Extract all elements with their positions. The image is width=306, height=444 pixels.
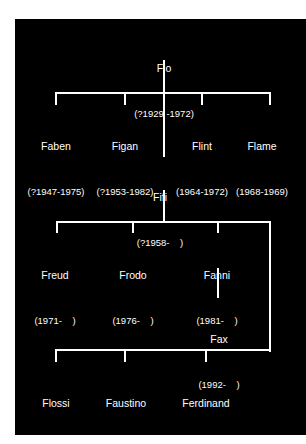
node-dates: (1968-1969) [236, 187, 288, 197]
node-ferdinand: Ferdinand (1992- ) [182, 366, 229, 444]
node-name: Ferdinand [182, 398, 229, 409]
page: Flo (?1929 -1972) Faben (?1947-1975) Fig… [0, 0, 306, 444]
node-name: Faustino [105, 398, 146, 409]
connector-faben [55, 92, 57, 105]
node-frodo: Frodo (1976- ) [112, 238, 153, 357]
node-name: Flossi [35, 398, 76, 409]
connector-fifi-right-drop [269, 221, 271, 352]
node-name: Frodo [112, 270, 153, 281]
node-name: Flint [176, 141, 228, 152]
node-name: Fanni [196, 270, 237, 281]
node-freud: Freud (1971- ) [34, 238, 75, 357]
node-name: Freud [34, 270, 75, 281]
node-name: Fax [198, 334, 239, 345]
node-dates: (1976- ) [112, 316, 153, 326]
node-flint: Flint (1964-1972) [176, 109, 228, 228]
connector-figan [124, 92, 126, 105]
connector-flint [201, 92, 203, 105]
connector-flame [269, 92, 271, 105]
node-faustino: Faustino (1989- ) [105, 366, 146, 444]
node-name: Figan [96, 141, 153, 152]
node-faben: Faben (?1947-1975) [27, 109, 84, 228]
node-dates: (1964-1972) [176, 187, 228, 197]
node-name: Faben [27, 141, 84, 152]
node-dates: (1971- ) [34, 316, 75, 326]
node-flame: Flame (1968-1969) [236, 109, 288, 228]
node-name: Flame [236, 141, 288, 152]
node-flossi: Flossi (1985- ) [35, 366, 76, 444]
node-dates: (?1947-1975) [27, 187, 84, 197]
node-name: Fifi [137, 192, 183, 203]
node-name: Flo [134, 63, 194, 74]
